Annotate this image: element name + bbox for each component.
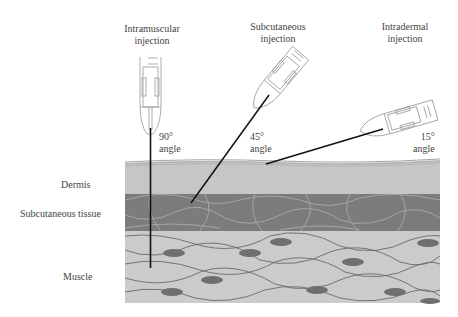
angle-value: 15° (413, 131, 435, 143)
injection-diagram (0, 0, 458, 317)
layer-label-subcutaneous: Subcutaneous tissue (20, 208, 101, 220)
angle-label-90: 90° angle (159, 131, 181, 155)
title-line: Intradermal (370, 21, 440, 33)
angle-value: 45° (250, 131, 272, 143)
angle-value: 90° (159, 131, 181, 143)
subcutaneous-layer (125, 194, 440, 231)
angle-label-15: 15° angle (413, 131, 435, 155)
layer-label-dermis: Dermis (61, 179, 90, 191)
title-line: Subcutaneous (240, 21, 316, 33)
syringe-intramuscular (140, 57, 161, 134)
title-line: injection (240, 33, 316, 45)
intradermal-title: Intradermal injection (370, 21, 440, 45)
layer-label-muscle: Muscle (63, 271, 92, 283)
skin-cross-section (125, 159, 440, 304)
angle-word: angle (250, 143, 272, 155)
intramuscular-title: Intramuscular injection (114, 23, 190, 47)
title-line: injection (114, 35, 190, 47)
title-line: Intramuscular (114, 23, 190, 35)
syringe-subcutaneous (246, 46, 308, 115)
needle-intradermal (266, 129, 383, 164)
angle-word: angle (413, 143, 435, 155)
title-line: injection (370, 33, 440, 45)
subcutaneous-title: Subcutaneous injection (240, 21, 316, 45)
angle-word: angle (159, 143, 181, 155)
angle-label-45: 45° angle (250, 131, 272, 155)
